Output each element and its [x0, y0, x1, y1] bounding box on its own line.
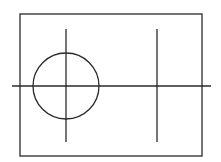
frame-rectangle: [20, 14, 202, 156]
diagram-canvas: [0, 0, 221, 162]
